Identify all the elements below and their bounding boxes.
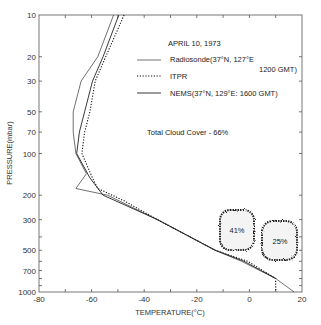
- x-axis-title: TEMPERATURE(°C): [135, 308, 205, 317]
- temperature-profile-chart: 10 20 30 50 70 100 200 300 500 700 1000 …: [0, 0, 321, 325]
- total-cloud-cover-label: Total Cloud Cover - 66%: [147, 128, 229, 137]
- legend-label-radiosonde-time: 1200 GMT): [259, 65, 297, 74]
- y-tick-200: 200: [23, 191, 37, 200]
- x-tick-minus60: -60: [86, 295, 98, 304]
- legend-label-radiosonde: Radiosonde(37°N, 127°E: [170, 55, 254, 64]
- x-tick-0: 0: [247, 295, 252, 304]
- y-tick-10: 10: [27, 11, 36, 20]
- y-tick-500: 500: [23, 246, 37, 255]
- y-tick-30: 30: [27, 77, 36, 86]
- legend-label-nems: NEMS(37°N, 129°E: 1600 GMT): [170, 89, 278, 98]
- x-tick-labels: -80 -60 -40 -20 0 20: [33, 295, 307, 304]
- y-tick-50: 50: [27, 108, 36, 117]
- x-tick-minus20: -20: [191, 295, 203, 304]
- cloud-41: 41%: [220, 210, 254, 250]
- y-tick-20: 20: [27, 53, 36, 62]
- y-tick-700: 700: [23, 267, 37, 276]
- x-tick-minus80: -80: [33, 295, 45, 304]
- cloud-25: 25%: [262, 221, 297, 260]
- y-axis-title: PRESSURE(mbar): [5, 121, 14, 185]
- y-tick-300: 300: [23, 216, 37, 225]
- x-tick-20: 20: [298, 295, 307, 304]
- legend: APRIL 10, 1973 Radiosonde(37°N, 127°E 12…: [137, 39, 297, 98]
- legend-label-itpr: ITPR: [170, 72, 188, 81]
- chart-title: APRIL 10, 1973: [168, 39, 221, 48]
- cloud-41-label: 41%: [229, 226, 244, 235]
- y-tick-100: 100: [23, 150, 37, 159]
- x-tick-minus40: -40: [138, 295, 150, 304]
- y-tick-labels: 10 20 30 50 70 100 200 300 500 700 1000: [18, 11, 36, 297]
- cloud-25-label: 25%: [272, 237, 287, 246]
- y-tick-70: 70: [27, 128, 36, 137]
